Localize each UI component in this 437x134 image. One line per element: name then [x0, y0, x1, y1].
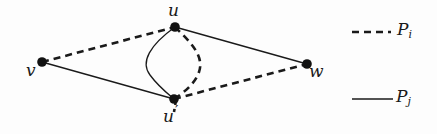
label-u-text: u	[168, 0, 179, 20]
legend-label-pi: Pi	[397, 21, 412, 40]
legend-pj-letter: P	[396, 86, 407, 106]
node-u	[170, 22, 180, 32]
label-w-text: w	[309, 61, 324, 81]
path-pj-edges	[42, 27, 307, 99]
graph-nodes	[37, 22, 312, 104]
legend-pi-subscript: i	[408, 28, 412, 41]
label-v: v	[26, 62, 36, 79]
node-v	[37, 57, 47, 67]
legend-pj-subscript: j	[407, 95, 410, 108]
label-u-prime-text: u	[163, 106, 174, 126]
label-u: u	[168, 2, 179, 19]
legend-pi-letter: P	[397, 19, 408, 39]
label-u-prime-mark: ′	[175, 102, 178, 120]
label-u-prime: u′	[163, 108, 177, 125]
edge-u-w-solid	[175, 27, 307, 64]
legend-lines	[352, 32, 393, 99]
legend-label-pj: Pj	[396, 88, 411, 107]
edge-u-uprime-dashed-curve	[174, 27, 200, 99]
label-v-text: v	[26, 60, 36, 80]
path-diagram	[0, 0, 437, 134]
label-w: w	[309, 63, 324, 80]
edge-u-uprime-solid-curve	[146, 27, 175, 99]
